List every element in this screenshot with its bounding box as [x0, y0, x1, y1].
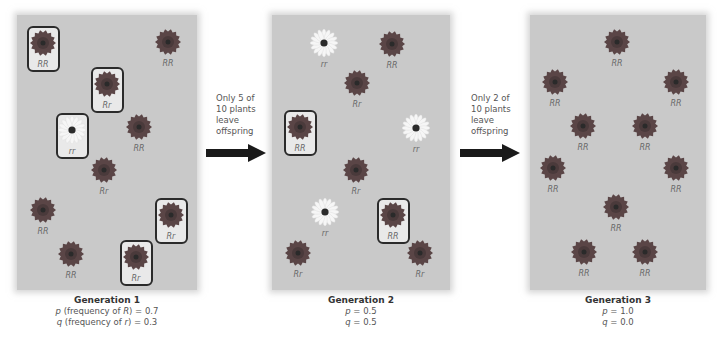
genotype-label: RR: [28, 60, 58, 70]
genotype-label: RR: [285, 144, 315, 154]
genotype-label: RR: [568, 143, 598, 153]
genotype-label: RR: [377, 61, 407, 71]
red-flower-icon: [631, 238, 659, 266]
red-flower-icon: [662, 68, 690, 96]
red-flower-icon: [379, 201, 407, 229]
genotype-label: RR: [661, 99, 691, 109]
white-flower-icon: [58, 116, 86, 144]
red-flower-icon: [29, 196, 57, 224]
red-flower-icon: [602, 193, 630, 221]
genotype-label: RR: [56, 271, 86, 281]
red-flower-icon: [122, 243, 150, 271]
red-flower-icon: [125, 113, 153, 141]
genotype-label: RR: [538, 185, 568, 195]
red-flower-icon: [569, 112, 597, 140]
red-flower-icon: [157, 201, 185, 229]
genotype-label: Rr: [89, 187, 119, 197]
red-flower-icon: [154, 28, 182, 56]
genotype-label: RR: [124, 144, 154, 154]
red-flower-icon: [90, 156, 118, 184]
white-flower-icon: [402, 114, 430, 142]
genotype-label: Rr: [342, 100, 372, 110]
genotype-label: RR: [28, 227, 58, 237]
genotype-label: RR: [601, 224, 631, 234]
white-flower-icon: [310, 29, 338, 57]
genotype-label: Rr: [405, 270, 435, 280]
genotype-label: RR: [378, 232, 408, 242]
red-flower-icon: [93, 70, 121, 98]
red-flower-icon: [284, 239, 312, 267]
red-flower-icon: [662, 154, 690, 182]
red-flower-icon: [541, 68, 569, 96]
genotype-label: RR: [661, 185, 691, 195]
red-flower-icon: [603, 28, 631, 56]
genotype-label: RR: [540, 99, 570, 109]
red-flower-icon: [57, 240, 85, 268]
genotype-label: Rr: [121, 274, 151, 284]
red-flower-icon: [406, 239, 434, 267]
genotype-label: RR: [569, 269, 599, 279]
genotype-label: RR: [630, 143, 660, 153]
genotype-label: RR: [153, 59, 183, 69]
red-flower-icon: [342, 156, 370, 184]
genotype-label: rr: [57, 147, 87, 157]
genotype-label: rr: [310, 229, 340, 239]
plants-layer: RRRRRrrrRRRrRRRrRRRrrrRRRrRRrrRrrrRRRrRr…: [0, 0, 717, 347]
red-flower-icon: [570, 238, 598, 266]
white-flower-icon: [311, 198, 339, 226]
red-flower-icon: [286, 113, 314, 141]
genotype-label: Rr: [283, 270, 313, 280]
genotype-label: rr: [401, 145, 431, 155]
genotype-label: rr: [309, 60, 339, 70]
red-flower-icon: [539, 154, 567, 182]
genotype-label: Rr: [92, 101, 122, 111]
genotype-label: Rr: [341, 187, 371, 197]
red-flower-icon: [378, 30, 406, 58]
red-flower-icon: [343, 69, 371, 97]
genotype-label: RR: [602, 59, 632, 69]
genotype-label: Rr: [156, 232, 186, 242]
red-flower-icon: [29, 29, 57, 57]
genotype-label: RR: [630, 269, 660, 279]
red-flower-icon: [631, 112, 659, 140]
